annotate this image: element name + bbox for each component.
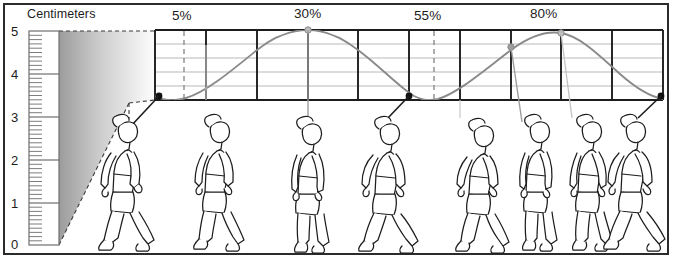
curve-markers [131, 27, 664, 126]
reference-lines [184, 31, 434, 99]
walker-figure-7 [570, 114, 612, 251]
perspective-wedge [59, 31, 155, 245]
walker-sequence [99, 114, 665, 253]
leader-peak2 [561, 33, 572, 118]
walker-figure-5 [456, 118, 509, 253]
walker-figure-3 [292, 116, 329, 253]
walker-figure-8 [604, 114, 665, 251]
plot-grid [155, 30, 663, 100]
figure-canvas [0, 0, 674, 260]
centimeter-ruler [29, 31, 59, 245]
walker-figure-2 [194, 114, 244, 251]
figure-root: Centimeters 5% 30% 55% 80% 5 4 3 2 1 0 [0, 0, 674, 260]
walker-figure-6 [520, 114, 557, 251]
walker-figure-4 [359, 116, 418, 253]
